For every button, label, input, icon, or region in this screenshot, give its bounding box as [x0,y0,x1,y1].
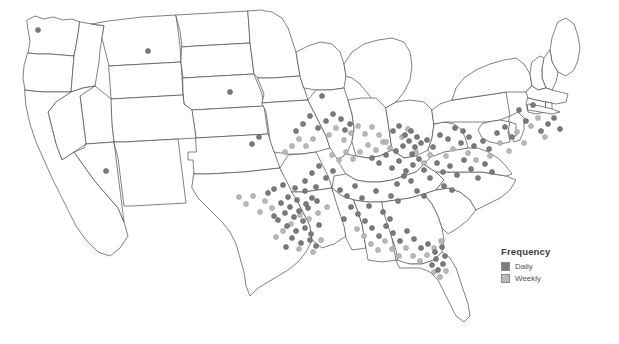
data-point [455,173,460,178]
state-south-dakota [181,43,254,78]
data-point [331,112,336,117]
data-point [319,238,324,243]
data-point [394,149,399,154]
data-point [356,212,361,217]
data-point [403,133,408,138]
data-point [430,263,435,268]
data-point [453,126,458,131]
data-point [412,237,417,242]
data-point [348,122,353,127]
data-point [324,176,329,181]
data-point [404,169,409,174]
data-point [495,131,500,136]
data-point [377,161,382,166]
data-point [286,195,291,200]
data-point [331,169,336,174]
data-point [441,170,446,175]
data-point [410,152,415,157]
data-point [448,164,453,169]
data-point [297,209,302,214]
data-point [407,139,412,144]
data-point [405,229,410,234]
data-point [370,125,375,130]
data-point [476,176,481,181]
data-point [308,238,313,243]
state-washington [27,16,80,56]
data-point [342,138,347,143]
data-point [409,129,414,134]
data-point [244,202,249,207]
data-point [426,242,431,247]
data-point [438,275,443,280]
data-point [36,28,41,33]
data-point [488,154,493,159]
data-point [395,182,400,187]
data-point [450,188,455,193]
data-point [324,119,329,124]
data-point [503,125,508,130]
state-wyoming [109,62,183,99]
data-point [374,148,379,153]
data-point [474,158,479,163]
data-point [539,129,544,134]
data-point [507,149,512,154]
legend-swatch-weekly [501,274,510,283]
data-point [366,143,371,148]
us-dot-density-map: Frequency Daily Weekly [0,0,619,344]
data-point [358,150,363,155]
data-point [316,126,321,131]
data-point [398,239,403,244]
data-point [498,141,503,146]
data-point [472,144,477,149]
data-point [283,211,288,216]
data-point [490,170,495,175]
us-map-svg [0,0,619,344]
data-point [467,135,472,140]
data-point [343,128,348,133]
data-point [383,239,388,244]
data-point [441,262,446,267]
data-point [316,211,321,216]
data-point [283,150,288,155]
data-point [433,250,438,255]
data-point [370,226,375,231]
data-point [344,150,349,155]
legend-item-daily[interactable]: Daily [501,261,611,272]
data-point [425,253,430,258]
data-point [311,137,316,142]
data-point [337,158,342,163]
data-point [552,116,557,121]
data-point [435,161,440,166]
data-point [415,189,420,194]
data-point [353,184,358,189]
legend-swatch-daily [501,262,510,271]
data-point [310,171,315,176]
legend-item-weekly[interactable]: Weekly [501,273,611,284]
data-point [351,157,356,162]
data-point [419,246,424,251]
data-point [297,137,302,142]
data-point [384,224,389,229]
data-point [274,235,279,240]
data-point [104,169,109,174]
data-point [391,129,396,134]
data-point [363,132,368,137]
data-point [434,257,439,262]
state-colorado [111,95,196,142]
data-point [349,131,354,136]
data-point [301,122,306,127]
data-point [483,162,488,167]
data-point [285,224,290,229]
state-wisconsin [296,42,346,90]
data-point [377,234,382,239]
data-point [272,187,277,192]
data-point [301,219,306,224]
data-point [411,163,416,168]
data-point [481,139,486,144]
data-point [314,244,319,249]
data-point [390,166,395,171]
data-point [317,164,322,169]
data-point [308,114,313,119]
data-point [438,133,443,138]
data-point [487,147,492,152]
